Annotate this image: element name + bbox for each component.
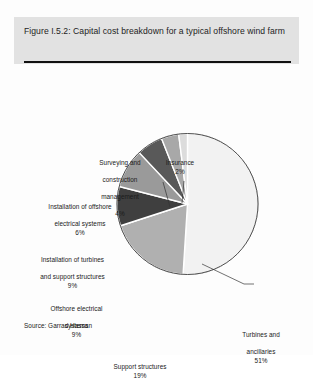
slice-label-turbines-line1: Turbines and	[242, 331, 280, 338]
title-divider	[24, 61, 291, 63]
source-note: Source: Garrad Hassan	[24, 322, 92, 329]
slice-label-surveying-line1: Surveying and	[99, 159, 140, 166]
slice-value-inst-turb: 9%	[18, 282, 127, 290]
slice-label-insurance-line1: Insurance	[166, 159, 194, 166]
slice-label-offshore-line1: Offshore electrical	[50, 305, 102, 312]
page-title: Figure I.5.2: Capital cost breakdown for…	[24, 23, 292, 40]
slice-label-turbines-line2: ancillaries	[247, 348, 276, 355]
slice-value-insurance: 2%	[155, 168, 205, 176]
slice-label-inst-elec-line1: Installation of offshore	[48, 203, 111, 210]
pie-chart: Surveying and construction management 4%…	[0, 66, 313, 311]
slice-label-support-line1: Support structures	[114, 363, 167, 370]
slice-label-surveying-line2: construction	[103, 176, 138, 183]
slice-label-inst-turb-line2: and support structures	[40, 273, 104, 280]
slice-label-support-structures: Support structures 19%	[95, 355, 185, 382]
slice-value-inst-elec: 6%	[32, 229, 128, 237]
slice-label-inst-turb-line1: Installation of turbines	[41, 256, 104, 263]
slice-label-turbines-ancillaries: Turbines and ancillaries 51%	[228, 323, 294, 373]
slice-value-offshore: 9%	[30, 331, 123, 339]
slice-label-inst-elec-line2: electrical systems	[54, 220, 105, 227]
slice-label-insurance: Insurance 2%	[155, 151, 205, 185]
slice-value-turbines: 51%	[228, 357, 294, 365]
slice-label-installation-offshore-electrical: Installation of offshore electrical syst…	[32, 195, 128, 245]
slice-label-installation-turbines: Installation of turbines and support str…	[18, 248, 127, 298]
slice-value-support: 19%	[95, 372, 185, 380]
